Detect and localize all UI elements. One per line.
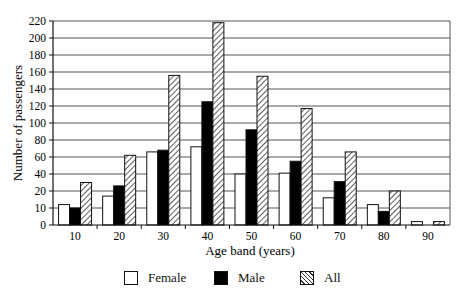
y-tick-label: 160: [29, 66, 47, 78]
bar-female: [323, 198, 334, 225]
y-tick-label: 220: [29, 15, 47, 27]
y-tick-label: 20: [35, 185, 47, 197]
y-tick-label: 200: [29, 32, 47, 44]
bar-all: [389, 191, 400, 225]
y-tick-label: 10: [35, 202, 47, 214]
bar-male: [378, 211, 389, 225]
x-tick-label: 60: [290, 230, 302, 242]
x-tick-label: 50: [246, 230, 258, 242]
bar-female: [279, 173, 290, 225]
bar-male: [158, 150, 169, 225]
bar-all: [213, 23, 224, 225]
y-tick-label: 0: [40, 219, 46, 231]
legend-item-all: All: [300, 270, 341, 286]
bar-female: [235, 174, 246, 225]
bar-female: [147, 152, 158, 225]
legend-item-female: Female: [124, 270, 186, 286]
legend-label-female: Female: [148, 270, 186, 286]
y-tick-label: 120: [29, 100, 47, 112]
bar-all: [345, 152, 356, 225]
legend-label-all: All: [324, 270, 341, 286]
bar-male: [334, 182, 345, 225]
bar-chart: 0102040608010012014016018020022010203040…: [0, 0, 463, 260]
y-tick-label: 40: [35, 168, 47, 180]
y-axis-label: Number of passengers: [10, 65, 25, 181]
legend: Female Male All: [0, 270, 463, 290]
bar-all: [257, 76, 268, 225]
bar-male: [114, 186, 125, 225]
y-tick-label: 60: [35, 151, 47, 163]
bar-all: [169, 75, 180, 225]
legend-item-male: Male: [214, 270, 265, 286]
x-tick-label: 30: [158, 230, 170, 242]
x-tick-label: 40: [202, 230, 214, 242]
y-tick-label: 100: [29, 117, 47, 129]
bar-male: [246, 130, 257, 225]
bars: [59, 23, 445, 225]
x-tick-label: 90: [422, 230, 434, 242]
x-tick-label: 80: [378, 230, 390, 242]
all-swatch-icon: [300, 271, 314, 285]
y-tick-label: 80: [35, 134, 47, 146]
bar-female: [367, 205, 378, 225]
y-tick-label: 140: [29, 83, 47, 95]
y-tick-label: 180: [29, 49, 47, 61]
bar-male: [70, 208, 81, 225]
x-tick-label: 10: [69, 230, 81, 242]
bar-all: [301, 109, 312, 225]
x-tick-label: 20: [113, 230, 125, 242]
male-swatch-icon: [214, 271, 228, 285]
bar-female: [103, 196, 114, 225]
bar-male: [290, 161, 301, 225]
bar-female: [191, 147, 202, 225]
x-tick-label: 70: [334, 230, 346, 242]
bar-female: [59, 205, 70, 225]
legend-label-male: Male: [238, 270, 265, 286]
x-axis-label: Age band (years): [205, 243, 295, 258]
bar-all: [125, 155, 136, 225]
bar-male: [202, 102, 213, 225]
female-swatch-icon: [124, 271, 138, 285]
bar-all: [81, 183, 92, 226]
